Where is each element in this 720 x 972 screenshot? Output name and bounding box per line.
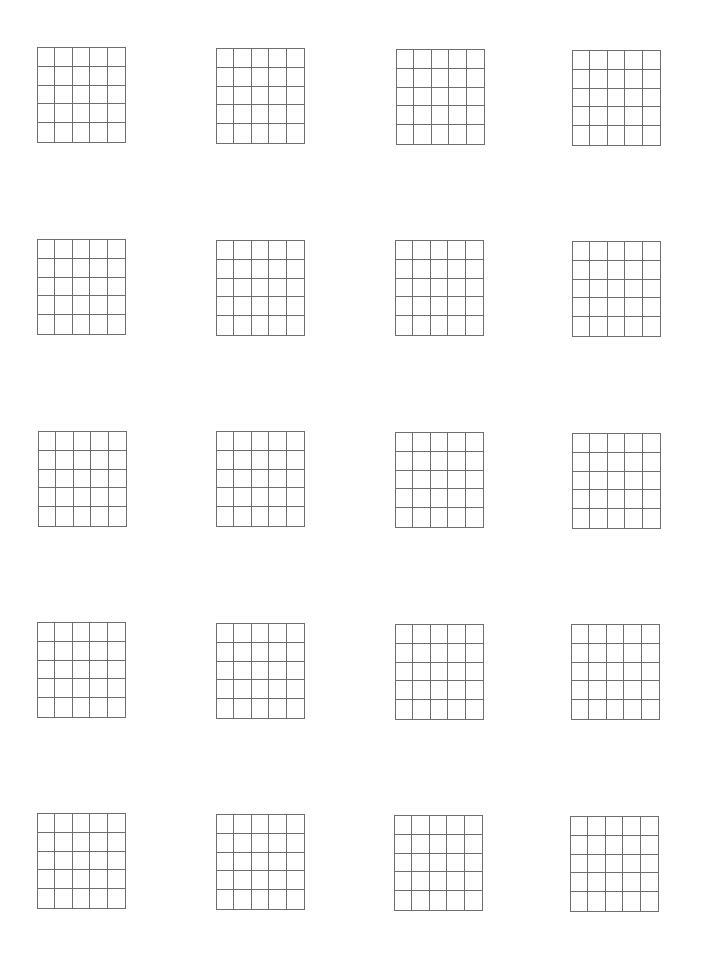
grid-cell bbox=[90, 48, 107, 67]
blank-grid-r1-c2 bbox=[216, 48, 305, 144]
grid-cell bbox=[413, 260, 430, 279]
grid-cell bbox=[413, 297, 430, 316]
grid-cell bbox=[269, 699, 286, 718]
grid-cell bbox=[56, 488, 73, 507]
grid-cell bbox=[252, 488, 269, 507]
grid-cell bbox=[55, 623, 72, 642]
grid-cell bbox=[590, 89, 607, 108]
grid-cell bbox=[447, 816, 464, 835]
grid-cell bbox=[73, 259, 90, 278]
grid-cell bbox=[573, 89, 590, 108]
grid-cell bbox=[589, 625, 606, 644]
grid-cell bbox=[431, 700, 448, 719]
grid-cell bbox=[643, 298, 660, 317]
grid-cell bbox=[108, 698, 125, 717]
grid-cell bbox=[269, 488, 286, 507]
grid-cell bbox=[287, 297, 304, 316]
grid-cell bbox=[252, 105, 269, 124]
grid-cell bbox=[269, 68, 286, 87]
grid-cell bbox=[467, 125, 484, 144]
grid-cell bbox=[571, 817, 588, 836]
grid-cell bbox=[287, 68, 304, 87]
grid-cell bbox=[624, 625, 641, 644]
grid-cell bbox=[623, 836, 640, 855]
grid-cell bbox=[73, 852, 90, 871]
grid-cell bbox=[55, 889, 72, 908]
grid-cell bbox=[590, 509, 607, 528]
grid-cell bbox=[432, 106, 449, 125]
blank-grid-r4-c2 bbox=[216, 623, 305, 719]
grid-cell bbox=[466, 471, 483, 490]
grid-cell bbox=[625, 453, 642, 472]
grid-cell bbox=[572, 700, 589, 719]
grid-cell bbox=[625, 490, 642, 509]
grid-cell bbox=[571, 873, 588, 892]
grid-cell bbox=[448, 700, 465, 719]
grid-cell bbox=[448, 489, 465, 508]
grid-cell bbox=[90, 67, 107, 86]
grid-cell bbox=[608, 472, 625, 491]
grid-cell bbox=[396, 471, 413, 490]
grid-cell bbox=[108, 48, 125, 67]
grid-cell bbox=[217, 815, 234, 834]
grid-cell bbox=[252, 87, 269, 106]
grid-cell bbox=[39, 470, 56, 489]
grid-cell bbox=[396, 316, 413, 335]
grid-cell bbox=[448, 279, 465, 298]
grid-cell bbox=[217, 470, 234, 489]
grid-cell bbox=[573, 472, 590, 491]
grid-cell bbox=[252, 890, 269, 909]
grid-cell bbox=[397, 50, 414, 69]
grid-cell bbox=[432, 88, 449, 107]
grid-cell bbox=[38, 296, 55, 315]
grid-cell bbox=[56, 470, 73, 489]
grid-cell bbox=[571, 855, 588, 874]
grid-cell bbox=[73, 278, 90, 297]
grid-cell bbox=[397, 69, 414, 88]
grid-cell bbox=[395, 872, 412, 891]
grid-cell bbox=[643, 472, 660, 491]
grid-cell bbox=[90, 315, 107, 334]
grid-cell bbox=[90, 870, 107, 889]
grid-cell bbox=[431, 279, 448, 298]
grid-cell bbox=[641, 836, 658, 855]
grid-cell bbox=[447, 891, 464, 910]
grid-cell bbox=[642, 700, 659, 719]
grid-cell bbox=[108, 278, 125, 297]
grid-cell bbox=[234, 316, 251, 335]
grid-cell bbox=[38, 889, 55, 908]
grid-cell bbox=[643, 509, 660, 528]
grid-cell bbox=[608, 242, 625, 261]
blank-grid-r1-c1 bbox=[37, 47, 126, 143]
grid-cell bbox=[395, 816, 412, 835]
grid-cell bbox=[252, 470, 269, 489]
blank-grid-r3-c1 bbox=[38, 431, 127, 527]
grid-cell bbox=[90, 889, 107, 908]
blank-grid-r3-c4 bbox=[572, 433, 661, 529]
grid-cell bbox=[625, 298, 642, 317]
grid-cell bbox=[431, 433, 448, 452]
grid-cell bbox=[38, 123, 55, 142]
grid-cell bbox=[74, 451, 91, 470]
grid-cell bbox=[287, 432, 304, 451]
grid-cell bbox=[38, 814, 55, 833]
blank-grid-r1-c3 bbox=[396, 49, 485, 145]
grid-cell bbox=[234, 279, 251, 298]
grid-cell bbox=[234, 105, 251, 124]
grid-cell bbox=[643, 280, 660, 299]
grid-cell bbox=[466, 260, 483, 279]
grid-cell bbox=[234, 297, 251, 316]
grid-cell bbox=[573, 509, 590, 528]
grid-cell bbox=[572, 644, 589, 663]
grid-cell bbox=[252, 260, 269, 279]
grid-cell bbox=[108, 259, 125, 278]
blank-grid-r2-c4 bbox=[572, 241, 661, 337]
grid-cell bbox=[269, 87, 286, 106]
grid-cell bbox=[466, 241, 483, 260]
grid-cell bbox=[573, 261, 590, 280]
grid-cell bbox=[430, 891, 447, 910]
grid-cell bbox=[431, 489, 448, 508]
grid-cell bbox=[625, 107, 642, 126]
grid-cell bbox=[466, 700, 483, 719]
grid-cell bbox=[217, 699, 234, 718]
